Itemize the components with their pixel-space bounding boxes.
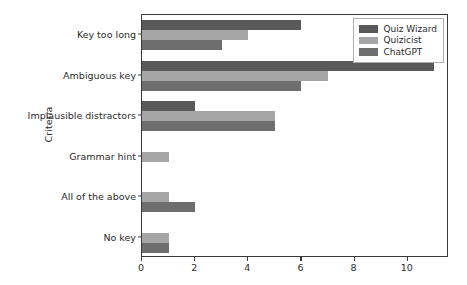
y-axis-tick-label: All of the above — [61, 191, 141, 202]
y-axis-tick-label: Grammar hint — [69, 150, 141, 161]
x-axis-tick-label: 2 — [191, 262, 197, 273]
x-axis-tick-mark — [247, 257, 248, 261]
x-axis-tick-label: 4 — [244, 262, 250, 273]
y-axis-tick-group: Key too longAmbiguous keyImplausible dis… — [0, 14, 141, 257]
x-axis-tick-label: 0 — [138, 262, 144, 273]
legend-color-swatch — [359, 25, 378, 33]
x-axis-tick-label: 6 — [297, 262, 303, 273]
bar — [142, 152, 169, 162]
y-axis-tick-label: No key — [103, 231, 141, 242]
bar — [142, 30, 248, 40]
bar — [142, 192, 169, 202]
legend-label: ChatGPT — [383, 48, 422, 57]
bar — [142, 40, 222, 50]
x-axis-tick-mark — [407, 257, 408, 261]
bar — [142, 71, 328, 81]
x-axis-tick-mark — [354, 257, 355, 261]
bar — [142, 233, 169, 243]
x-axis-tick-label: 10 — [401, 262, 413, 273]
y-axis-tick-label: Key too long — [77, 29, 141, 40]
x-axis-tick-mark — [300, 257, 301, 261]
bar — [142, 101, 195, 111]
bar — [142, 243, 169, 253]
legend-color-swatch — [359, 48, 378, 56]
legend-item: ChatGPT — [359, 47, 437, 58]
legend-item: Quizicist — [359, 35, 437, 46]
bar — [142, 81, 301, 91]
bar — [142, 121, 275, 131]
x-axis-tick-mark — [141, 257, 142, 261]
legend-label: Quiz Wizard — [383, 25, 437, 34]
chart-figure: Criteria Key too longAmbiguous keyImplau… — [0, 0, 467, 285]
chart-legend: Quiz WizardQuizicistChatGPT — [353, 18, 444, 63]
x-axis-tick-label: 8 — [351, 262, 357, 273]
legend-item: Quiz Wizard — [359, 24, 437, 35]
plot-area: Quiz WizardQuizicistChatGPT — [141, 14, 448, 257]
bar — [142, 202, 195, 212]
y-axis-tick-label: Implausible distractors — [28, 110, 141, 121]
x-axis-tick-group: 0246810 — [141, 257, 448, 283]
legend-label: Quizicist — [383, 36, 421, 45]
x-axis-tick-mark — [194, 257, 195, 261]
bar — [142, 111, 275, 121]
bar — [142, 20, 301, 30]
y-axis-tick-label: Ambiguous key — [63, 69, 141, 80]
legend-color-swatch — [359, 37, 378, 45]
